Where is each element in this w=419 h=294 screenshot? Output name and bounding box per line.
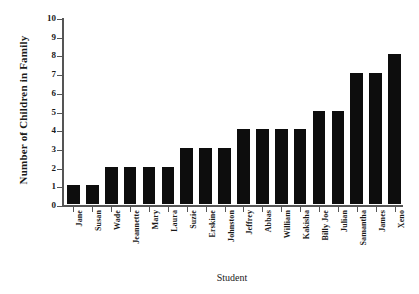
bar	[294, 129, 307, 204]
bar	[256, 129, 269, 204]
x-tick-label: Kakisha	[303, 210, 311, 239]
bar	[162, 167, 175, 204]
x-tick-label: Jeannette	[133, 210, 141, 244]
x-tick-label-text: Laura	[171, 210, 179, 232]
y-tick-label: 1	[34, 182, 56, 191]
x-axis-line	[62, 205, 403, 207]
x-tick-label-text: Xeno	[398, 210, 406, 228]
y-tick-mark	[57, 19, 62, 20]
bar	[199, 148, 212, 204]
plot-area: 012345678910	[62, 18, 402, 206]
bar	[313, 111, 326, 205]
x-tick-label: Julian	[341, 210, 349, 232]
bar	[143, 167, 156, 204]
x-tick-label-text: Abbas	[265, 210, 273, 232]
y-tick-label: 8	[34, 51, 56, 60]
y-axis-title: Number of Children in Family	[17, 10, 29, 210]
x-tick-label-text: Jane	[76, 210, 84, 226]
x-tick-label: Samantha	[360, 210, 368, 245]
x-tick-label: Jane	[76, 210, 84, 226]
x-tick-label: William	[284, 210, 292, 238]
bar	[86, 185, 99, 204]
x-tick-label: James	[379, 210, 387, 232]
x-tick-label-text: Wade	[114, 210, 122, 230]
bar	[218, 148, 231, 204]
y-tick-labels: 012345678910	[32, 18, 56, 207]
y-tick-label: 10	[34, 14, 56, 23]
x-tick-label-text: Jeannette	[133, 210, 141, 244]
x-tick-label-text: Erskine	[209, 210, 217, 237]
y-tick-label: 6	[34, 89, 56, 98]
x-tick-label-text: Jeffrey	[246, 210, 254, 235]
y-tick-mark	[57, 38, 62, 39]
x-tick-label: Abbas	[265, 210, 273, 232]
y-tick-mark	[57, 187, 62, 188]
x-tick-label-text: Susan	[95, 210, 103, 231]
y-tick-mark	[57, 75, 62, 76]
y-tick-label: 9	[34, 33, 56, 42]
x-tick-label-text: Samantha	[360, 210, 368, 245]
y-tick-mark	[57, 113, 62, 114]
y-tick-label: 7	[34, 70, 56, 79]
y-tick-mark	[57, 150, 62, 151]
y-tick-label: 3	[34, 145, 56, 154]
bar	[388, 54, 401, 204]
x-tick-label-text: William	[284, 210, 292, 238]
bar	[105, 167, 118, 204]
bar	[369, 73, 382, 204]
y-tick-mark	[57, 56, 62, 57]
x-tick-label: Xeno	[398, 210, 406, 228]
x-tick-label-text: Kakisha	[303, 210, 311, 239]
x-tick-label: Susan	[95, 210, 103, 231]
bar	[332, 111, 345, 205]
y-tick-label: 4	[34, 126, 56, 135]
y-tick-label: 0	[34, 201, 56, 210]
x-tick-label: Wade	[114, 210, 122, 230]
bar-chart-figure: Number of Children in Family 01234567891…	[0, 0, 419, 294]
x-axis-title: Student	[62, 272, 402, 283]
x-tick-label-text: Johnston	[228, 210, 236, 242]
x-tick-label: Johnston	[228, 210, 236, 242]
x-tick-label: Laura	[171, 210, 179, 232]
x-tick-label-text: Billy Joe	[322, 210, 330, 240]
x-tick-label-text: Suzie	[190, 210, 198, 229]
x-tick-label: Erskine	[209, 210, 217, 237]
bar	[237, 129, 250, 204]
y-tick-mark	[57, 169, 62, 170]
x-tick-label: Jeffrey	[246, 210, 254, 235]
x-tick-labels: JaneSusanWadeJeannetteMaryLauraSuzieErsk…	[62, 210, 402, 268]
bar	[124, 167, 137, 204]
y-tick-mark	[57, 131, 62, 132]
bar	[275, 129, 288, 204]
y-tick-label: 5	[34, 108, 56, 117]
x-tick-label: Billy Joe	[322, 210, 330, 240]
x-tick-label-text: Julian	[341, 210, 349, 232]
bar	[350, 73, 363, 204]
x-tick-label: Mary	[152, 210, 160, 230]
y-axis-line	[62, 18, 64, 207]
x-tick-label-text: James	[379, 210, 387, 232]
x-tick-label-text: Mary	[152, 210, 160, 230]
bar	[67, 185, 80, 204]
y-tick-mark	[57, 94, 62, 95]
x-tick-label: Suzie	[190, 210, 198, 229]
bar	[180, 148, 193, 204]
y-tick-mark	[57, 206, 62, 207]
y-tick-label: 2	[34, 164, 56, 173]
